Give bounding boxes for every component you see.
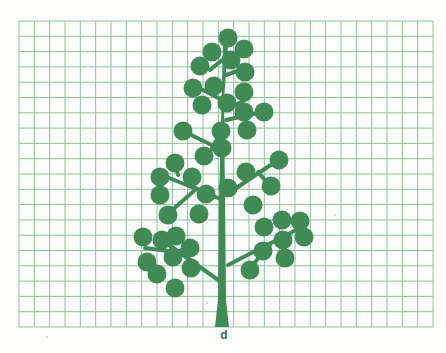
foliage-circle [151, 186, 170, 205]
paper-speck [334, 214, 336, 216]
foliage-circle [213, 139, 232, 158]
foliage-circle [262, 177, 281, 196]
foliage-circle [193, 96, 212, 115]
foliage-circle [291, 212, 310, 231]
foliage-circle [166, 154, 185, 173]
foliage-circle [255, 103, 274, 122]
foliage-circle [184, 79, 203, 98]
foliage-circle [181, 239, 200, 258]
foliage-circle [236, 63, 255, 82]
foliage-circle [182, 259, 201, 278]
foliage-circle [295, 228, 314, 247]
foliage-circle [190, 205, 209, 224]
foliage-circle [238, 121, 257, 140]
foliage-circle [166, 279, 185, 298]
foliage-circle [244, 196, 263, 215]
foliage-circle [197, 185, 216, 204]
foliage-circle [134, 228, 153, 247]
foliage-circle [219, 29, 238, 48]
tree-branch [210, 60, 222, 70]
foliage-circle [174, 122, 193, 141]
foliage-circle [148, 265, 167, 284]
foliage-circle [273, 211, 292, 230]
foliage-circle [191, 57, 210, 76]
foliage-circle [254, 242, 273, 261]
foliage-circle [219, 179, 238, 198]
foliage-circle [212, 122, 231, 141]
tree-illustration [46, 29, 336, 338]
tree-figure [0, 0, 446, 353]
foliage-circle [235, 103, 254, 122]
paper-speck [46, 336, 48, 338]
foliage-circle [235, 83, 254, 102]
foliage-circle [274, 231, 293, 250]
paper-speck [206, 302, 208, 304]
foliage-circle [195, 147, 214, 166]
foliage-circle [164, 248, 183, 267]
foliage-circle [218, 94, 237, 113]
foliage-circle [205, 77, 224, 96]
foliage-circle [159, 206, 178, 225]
foliage-circle [237, 163, 256, 182]
figure-label: d [214, 328, 234, 342]
foliage-circle [255, 218, 274, 237]
foliage-circle [276, 249, 295, 268]
foliage-circle [270, 151, 289, 170]
foliage-circle [151, 168, 170, 187]
foliage-circle [183, 168, 202, 187]
foliage-circle [241, 261, 260, 280]
